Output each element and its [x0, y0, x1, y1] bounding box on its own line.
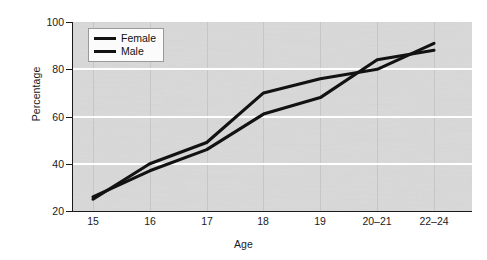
chart-figure: 100 80 60 40 20 15 16 17 18 19 20–21 22–…: [0, 0, 487, 260]
y-axis-title: Percentage: [30, 34, 42, 154]
legend-swatch-female-icon: [94, 37, 116, 40]
x-axis-title: Age: [0, 238, 487, 250]
x-tick-22-24: 22–24: [399, 216, 469, 227]
legend-item-female: Female: [94, 32, 156, 45]
legend-label-male: Male: [121, 46, 144, 57]
legend-swatch-male-icon: [94, 50, 116, 53]
chart-legend: Female Male: [88, 28, 164, 62]
legend-item-male: Male: [94, 45, 156, 58]
legend-label-female: Female: [121, 33, 156, 44]
x-axis-tick-labels: 15 16 17 18 19 20–21 22–24: [0, 0, 487, 260]
